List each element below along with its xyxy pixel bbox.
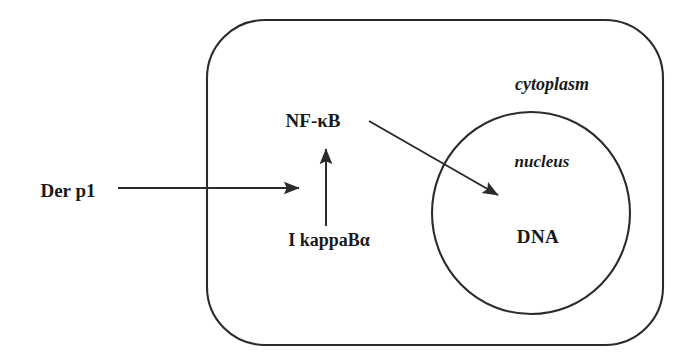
arrow-nfkb-to-dna — [369, 121, 498, 195]
label-nf-kappa-b: NF-κB — [286, 111, 341, 130]
diagram-canvas: Der p1 NF-κB I kappaBα cytoplasm nucleus… — [0, 0, 687, 359]
label-der-p1: Der p1 — [40, 181, 95, 200]
nuclear-envelope-outline — [432, 112, 630, 314]
label-cytoplasm: cytoplasm — [515, 75, 589, 93]
cell-membrane-outline — [207, 20, 663, 345]
label-nucleus: nucleus — [515, 153, 570, 170]
pathway-diagram — [0, 0, 687, 359]
label-dna: DNA — [517, 227, 560, 246]
label-i-kappa-b-alpha: I kappaBα — [288, 231, 370, 249]
